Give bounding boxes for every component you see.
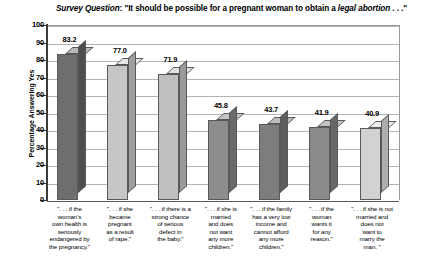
x-axis-label-line: became (96, 213, 144, 221)
x-axis-label-line: strong chance (146, 213, 194, 221)
x-axis-label-line: income and (247, 220, 295, 228)
x-axis-label-line: reason." (297, 235, 345, 243)
x-axis-label-line: ". . . if the family (247, 205, 295, 213)
gridlines (47, 26, 399, 200)
x-axis-label-line: ". . . if there is a (146, 205, 194, 213)
gridline (47, 201, 399, 202)
x-axis-label: ". . . if the familyhas a very lowincome… (247, 205, 295, 251)
x-axis-label-line: ". . . if the (45, 205, 93, 213)
x-axis-label-line: woman's (45, 213, 93, 221)
y-tick-label: 40 (18, 126, 44, 134)
gridline (47, 61, 399, 62)
gridline (47, 184, 399, 185)
x-axis-label-line: woman (297, 213, 345, 221)
y-tick-label: 60 (18, 91, 44, 99)
x-axis-label-line: ". . . if she is (197, 205, 245, 213)
plot-area (47, 25, 400, 200)
x-axis-label-line: the baby." (146, 235, 194, 243)
chart-title-text: "It should be possible for a pregnant wo… (124, 4, 337, 13)
x-axis-label-line: seriously (45, 228, 93, 236)
gridline (47, 26, 399, 27)
x-axis-label-line: married and (348, 213, 396, 221)
y-tick-label: 90 (18, 39, 44, 47)
gridline (47, 44, 399, 45)
x-axis-label: ". . . if she is notmarried anddoes notw… (348, 205, 396, 251)
x-axis-label-line: of rape." (96, 235, 144, 243)
x-axis-label-line: children." (247, 243, 295, 251)
x-axis-label: ". . . if there is astrong chanceof seri… (146, 205, 194, 243)
x-axis-label-line: ". . . if she is not (348, 205, 396, 213)
x-axis-label-line: any more (247, 235, 295, 243)
x-axis-label-line: own health is (45, 220, 93, 228)
gridline (47, 114, 399, 115)
x-axis-label-line: man. " (348, 243, 396, 251)
x-axis-label: ". . . if thewoman'sown health isserious… (45, 205, 93, 251)
x-axis-label: ". . . if shebecamepregnantas a resultof… (96, 205, 144, 243)
x-axis-label-line: want to (348, 228, 396, 236)
x-axis-label-line: the pregnancy." (45, 243, 93, 251)
gridline (47, 166, 399, 167)
x-axis-label-line: married (197, 213, 245, 221)
x-axis-label-line: and does (197, 220, 245, 228)
x-axis-label-line: ". . . if the (297, 205, 345, 213)
x-axis-label: ". . . if she ismarriedand doesnot wanta… (197, 205, 245, 251)
x-axis-label-line: children." (197, 243, 245, 251)
x-axis-label: ". . . if thewomanwants itfor anyreason.… (297, 205, 345, 243)
x-axis-label-line: as a result (96, 228, 144, 236)
x-axis-label-line: wants it (297, 220, 345, 228)
chart-title-label: Survey Question (56, 4, 120, 13)
x-axis-label-line: cannot afford (247, 228, 295, 236)
chart-title: Survey Question: "It should be possible … (56, 3, 414, 14)
y-tick-label: 100 (18, 21, 44, 29)
y-tick-label: 10 (18, 179, 44, 187)
y-tick-label: 20 (18, 161, 44, 169)
gridline (47, 96, 399, 97)
x-axis-label-line: any more (197, 235, 245, 243)
x-axis-label-line: endangered by (45, 235, 93, 243)
chart-title-tail: . . ." (390, 4, 407, 13)
y-tick-label: 50 (18, 109, 44, 117)
x-axis-label-line: of serious (146, 220, 194, 228)
y-tick-label: 30 (18, 144, 44, 152)
x-axis-label-line: pregnant (96, 220, 144, 228)
gridline (47, 79, 399, 80)
x-axis-label-line: does not (348, 220, 396, 228)
x-axis-label-line: ". . . if she (96, 205, 144, 213)
y-axis-spine (46, 24, 48, 201)
gridline (47, 149, 399, 150)
x-axis-label-line: marry the (348, 235, 396, 243)
gridline (47, 131, 399, 132)
y-tick-label: 80 (18, 56, 44, 64)
x-axis-label-line: not want (197, 228, 245, 236)
y-tick-label: 70 (18, 74, 44, 82)
y-tick-label: 0 (18, 196, 44, 204)
x-axis-label-line: for any (297, 228, 345, 236)
chart-title-emphasis: legal abortion (338, 4, 390, 13)
x-axis-label-line: defect in (146, 228, 194, 236)
x-axis-labels: ". . . if thewoman'sown health isserious… (0, 205, 421, 258)
x-axis-label-line: has a very low (247, 213, 295, 221)
